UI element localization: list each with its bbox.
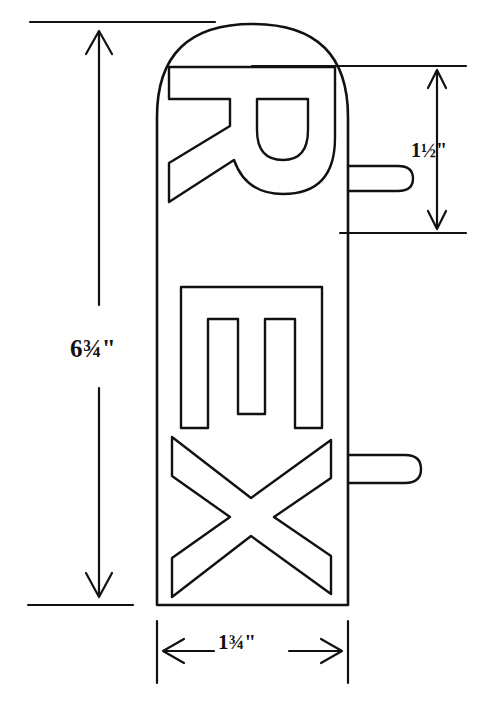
- technical-drawing: 6¾" 1½" 1¾": [0, 0, 479, 715]
- dimension-height-group: [28, 22, 215, 605]
- letter-r: [169, 67, 335, 202]
- overall-height-label: 6¾": [70, 336, 116, 361]
- overall-width-label: 1¾": [218, 632, 256, 653]
- letter-height-label: 1½": [411, 140, 447, 160]
- lower-mounting-tab: [348, 455, 421, 483]
- mounting-tabs-group: [348, 166, 421, 483]
- sign-body-group: [157, 24, 348, 605]
- letter-x: [172, 437, 331, 597]
- upper-mounting-tab: [348, 166, 413, 191]
- letter-group: [169, 67, 335, 597]
- letter-e: [181, 287, 322, 428]
- sign-body-outline: [157, 24, 348, 605]
